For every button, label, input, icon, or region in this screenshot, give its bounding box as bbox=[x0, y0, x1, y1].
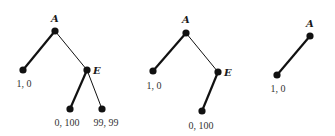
leaf-node bbox=[19, 66, 26, 73]
tree-reduced-game: A 1, 0 bbox=[271, 18, 315, 94]
node-e-label: E bbox=[92, 65, 101, 76]
leaf-node bbox=[149, 67, 156, 74]
node-e bbox=[83, 66, 90, 73]
payoff-label: 99, 99 bbox=[94, 117, 119, 128]
node-a-label: A bbox=[181, 14, 190, 25]
node-a bbox=[51, 27, 58, 34]
leaf-node bbox=[98, 105, 105, 112]
payoff-label: 0, 100 bbox=[55, 117, 80, 128]
node-e-label: E bbox=[223, 67, 232, 78]
tree-pruned-game: A E 1, 0 0, 100 bbox=[147, 14, 233, 131]
edge-e-to-leaf bbox=[202, 72, 218, 111]
game-trees-diagram: A E 1, 0 0, 100 99, 99 A E 1, 0 0, 100 A… bbox=[0, 0, 335, 136]
leaf-node bbox=[66, 105, 73, 112]
node-e bbox=[214, 68, 221, 75]
node-a bbox=[306, 32, 313, 39]
leaf-node bbox=[198, 107, 205, 114]
payoff-label: 1, 0 bbox=[147, 80, 162, 91]
tree-full-game: A E 1, 0 0, 100 99, 99 bbox=[17, 13, 119, 128]
node-a-label: A bbox=[305, 18, 314, 29]
edge-a-to-e bbox=[186, 33, 218, 72]
payoff-label: 1, 0 bbox=[271, 83, 286, 94]
node-a-label: A bbox=[50, 13, 59, 24]
edge-a-to-leaf bbox=[277, 36, 310, 75]
node-a bbox=[182, 29, 189, 36]
edge-a-to-e bbox=[55, 31, 87, 70]
edge-a-to-left-leaf bbox=[23, 31, 55, 70]
edge-e-to-left-leaf bbox=[70, 70, 87, 109]
edge-a-to-left-leaf bbox=[153, 33, 186, 71]
leaf-node bbox=[273, 71, 280, 78]
payoff-label: 0, 100 bbox=[189, 120, 214, 131]
payoff-label: 1, 0 bbox=[17, 78, 32, 89]
